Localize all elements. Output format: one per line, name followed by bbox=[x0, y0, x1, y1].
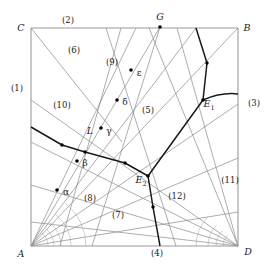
point-label-epsilon: ε bbox=[137, 69, 142, 78]
point-dot-beta bbox=[75, 159, 79, 163]
point-label-E1: E1 bbox=[203, 99, 214, 111]
point-dot-gamma bbox=[99, 126, 103, 130]
curve-label-L: L bbox=[87, 126, 93, 136]
geometric-diagram: C B A D G E1 E2 α β γ δ ε L (1) (2) (3) … bbox=[0, 0, 272, 273]
region-label-9: (9) bbox=[106, 58, 118, 67]
bend-node-E2-down-0 bbox=[151, 205, 154, 208]
region-label-6: (6) bbox=[68, 46, 80, 55]
point-label-beta: β bbox=[82, 159, 87, 168]
point-label-G: G bbox=[156, 12, 164, 22]
bend-node-L-polyline-0 bbox=[60, 143, 63, 146]
bold-E-polyline bbox=[148, 28, 207, 176]
point-dot-alpha bbox=[55, 188, 59, 192]
thin-line-D-fan-5 bbox=[149, 28, 238, 246]
point-dot-delta bbox=[115, 98, 119, 102]
vertex-label-D: D bbox=[244, 247, 252, 257]
point-dot-G bbox=[158, 25, 162, 29]
point-label-alpha: α bbox=[63, 188, 69, 197]
region-label-10: (10) bbox=[53, 101, 70, 110]
vertex-label-A: A bbox=[18, 249, 25, 259]
region-label-4: (4) bbox=[151, 249, 163, 258]
bend-node-E-polyline-0 bbox=[205, 61, 208, 64]
thin-line-A-fan-6 bbox=[31, 158, 238, 246]
thin-line-D-fan-6 bbox=[177, 28, 238, 246]
bend-node-L-polyline-2 bbox=[123, 161, 126, 164]
thin-line-group bbox=[31, 27, 238, 246]
thin-line-A-fan-7 bbox=[31, 212, 238, 246]
diagram-canvas bbox=[0, 0, 272, 273]
region-label-2: (2) bbox=[62, 16, 74, 25]
vertex-label-B: B bbox=[244, 23, 251, 33]
region-label-5: (5) bbox=[142, 106, 154, 115]
region-label-1: (1) bbox=[11, 84, 23, 93]
region-label-8: (8) bbox=[84, 194, 96, 203]
vertex-label-C: C bbox=[17, 23, 24, 33]
region-label-11: (11) bbox=[221, 176, 238, 185]
point-label-delta: δ bbox=[122, 98, 127, 107]
point-dot-epsilon bbox=[129, 68, 133, 72]
region-label-12: (12) bbox=[168, 192, 185, 201]
bend-node-L-polyline-1 bbox=[83, 150, 86, 153]
point-label-E2: E2 bbox=[135, 175, 146, 187]
point-label-gamma: γ bbox=[106, 127, 111, 136]
point-dot-E2 bbox=[146, 174, 150, 178]
region-label-3: (3) bbox=[248, 99, 260, 108]
thin-line-D-fan-4 bbox=[31, 222, 238, 246]
region-label-7: (7) bbox=[112, 211, 124, 220]
